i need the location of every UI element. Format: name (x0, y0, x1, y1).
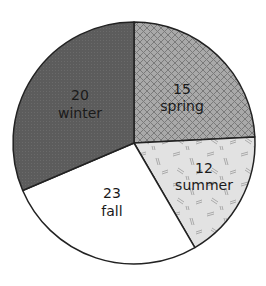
slice-value-summer: 12 (195, 160, 213, 176)
slice-value-winter: 20 (71, 87, 89, 103)
pie-chart: 15spring12summer23fall20winter (0, 0, 266, 286)
slice-label-fall: fall (101, 203, 122, 219)
slice-value-fall: 23 (103, 185, 121, 201)
slice-label-winter: winter (58, 105, 102, 121)
pie-slice-spring (134, 22, 255, 143)
slice-label-spring: spring (160, 98, 204, 114)
slice-label-summer: summer (175, 177, 233, 193)
pie-slices (13, 22, 255, 264)
slice-value-spring: 15 (173, 81, 191, 97)
